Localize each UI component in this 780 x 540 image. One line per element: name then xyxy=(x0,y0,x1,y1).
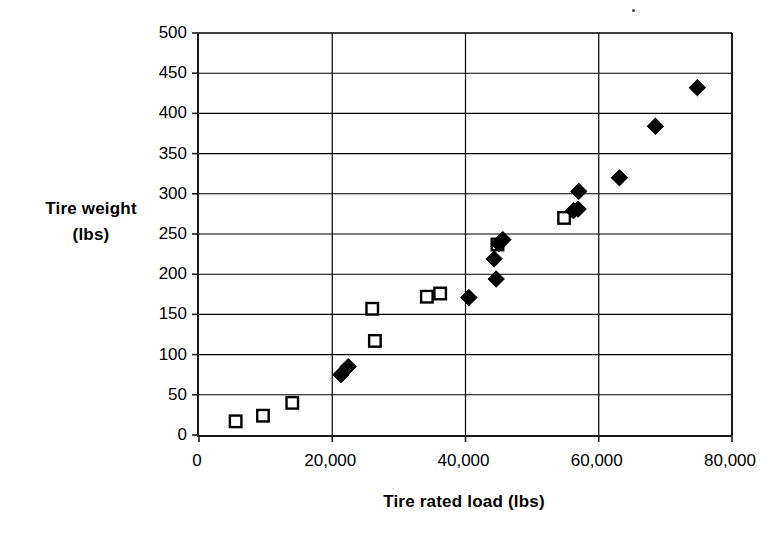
data-point-open-square xyxy=(369,335,381,347)
y-axis-tick-label: 300 xyxy=(127,185,187,202)
x-axis-tick-label: 80,000 xyxy=(704,452,756,469)
y-axis-tick-label: 50 xyxy=(127,386,187,403)
data-point-open-square xyxy=(230,416,242,428)
data-point-filled-diamond xyxy=(689,79,705,95)
x-axis-tick-label: 40,000 xyxy=(438,452,490,469)
y-axis-tick-label: 500 xyxy=(127,24,187,41)
y-axis-tick-label: 250 xyxy=(127,225,187,242)
y-axis-tick-labels: 050100150200250300350400450500 xyxy=(125,33,187,435)
x-axis-title: Tire rated load (lbs) xyxy=(197,492,731,512)
x-axis-tick-label: 20,000 xyxy=(304,452,356,469)
y-axis-tick-label: 350 xyxy=(127,145,187,162)
x-axis-tick-label: 60,000 xyxy=(571,452,623,469)
data-point-filled-diamond xyxy=(461,289,477,305)
y-axis-tick-label: 0 xyxy=(127,426,187,443)
y-axis-tick-label: 450 xyxy=(127,64,187,81)
data-point-open-square xyxy=(287,397,299,409)
scatter-chart: Tire weight (lbs) 0501001502002503003504… xyxy=(0,0,780,540)
plot-area xyxy=(197,33,732,437)
y-axis-title-line1: Tire weight xyxy=(45,199,137,218)
data-point-open-square xyxy=(257,410,269,422)
y-axis-tick-label: 200 xyxy=(127,265,187,282)
plot-canvas xyxy=(199,33,732,435)
x-axis-tick-labels: 020,00040,00060,00080,000 xyxy=(197,452,730,476)
y-axis-tick-label: 100 xyxy=(127,346,187,363)
data-point-open-square xyxy=(434,288,446,300)
data-point-filled-diamond xyxy=(611,170,627,186)
data-point-filled-diamond xyxy=(571,183,587,199)
data-point-filled-diamond xyxy=(486,251,502,267)
scan-artifact-speck xyxy=(632,9,635,12)
y-axis-tick-label: 400 xyxy=(127,104,187,121)
y-axis-tick-label: 150 xyxy=(127,305,187,322)
x-axis-tick-label: 0 xyxy=(192,452,201,469)
series-filled-diamond-series xyxy=(333,79,706,382)
data-point-open-square xyxy=(421,291,433,303)
data-point-open-square xyxy=(366,303,378,315)
data-point-filled-diamond xyxy=(488,271,504,287)
data-point-filled-diamond xyxy=(647,118,663,134)
